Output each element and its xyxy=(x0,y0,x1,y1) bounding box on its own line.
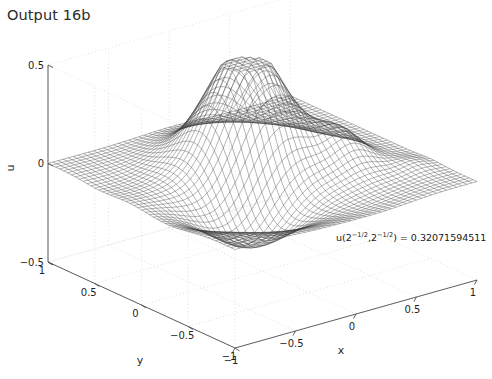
surface-mesh xyxy=(48,57,477,250)
x-axis-label: x xyxy=(338,344,345,357)
z-tick-label: −0.5 xyxy=(20,257,44,268)
y-tick-label: 0.5 xyxy=(81,287,97,298)
y-axis-label: y xyxy=(137,354,144,367)
x-tick-label: 0 xyxy=(349,321,355,332)
y-tick-label: −0.5 xyxy=(170,330,194,341)
page-title: Output 16b xyxy=(7,7,91,23)
floor-gridlines xyxy=(48,194,477,348)
z-tick-label: 0 xyxy=(38,158,44,169)
figure-canvas: Output 16b −1−0.500.51−1−0.500.51−0.500.… xyxy=(0,0,492,379)
z-axis-label: u xyxy=(4,165,17,172)
y-tick-label: −1 xyxy=(222,351,237,362)
z-tick-label: 0.5 xyxy=(28,60,44,71)
y-tick-label: 0 xyxy=(132,308,138,319)
surface-plot: −1−0.500.51−1−0.500.51−0.500.5 u(2−1/2,2… xyxy=(0,0,492,379)
x-tick-label: 1 xyxy=(470,287,476,298)
surface-value-annotation: u(2−1/2,2−1/2) = 0.32071594511 xyxy=(336,231,486,243)
x-tick-label: −0.5 xyxy=(279,338,303,349)
x-tick-label: 0.5 xyxy=(405,304,421,315)
axis-ticks: −1−0.500.51−1−0.500.51−0.500.5 xyxy=(20,60,477,367)
